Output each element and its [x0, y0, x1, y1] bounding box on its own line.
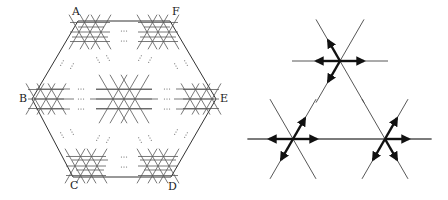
vertex-label-b: B: [19, 92, 27, 105]
vertex-label-a: A: [72, 5, 80, 18]
lattice-stars: [26, 15, 221, 184]
vertex-label-f: F: [172, 5, 180, 18]
vertex-label-c: C: [70, 179, 78, 192]
vertex-label-d: D: [168, 180, 177, 193]
vertex-label-e: E: [220, 92, 228, 105]
arrow-stars: [247, 19, 432, 178]
